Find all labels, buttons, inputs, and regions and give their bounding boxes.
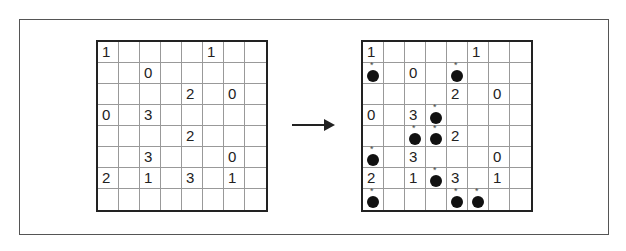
grid-cell: 3: [405, 147, 426, 168]
fuse-spark-icon: *: [475, 187, 479, 196]
fuse-spark-icon: *: [454, 61, 458, 70]
grid-cell: [384, 147, 405, 168]
grid-cell: [405, 42, 426, 63]
clue-grid: 11020032302131: [96, 40, 268, 212]
grid-cell: *: [405, 126, 426, 147]
grid-cell: [384, 168, 405, 189]
grid-cell: [161, 42, 182, 63]
grid-cell: [224, 189, 245, 210]
grid-cell: [161, 189, 182, 210]
clue-number: 0: [493, 148, 501, 166]
grid-cell: [384, 105, 405, 126]
clue-number: 2: [451, 85, 459, 103]
clue-number: 1: [144, 169, 152, 187]
grid-cell: [405, 84, 426, 105]
clue-number: 0: [228, 85, 236, 103]
clue-number: 2: [186, 127, 194, 145]
grid-cell: [140, 126, 161, 147]
clue-number: 3: [409, 148, 417, 166]
clue-number: 3: [186, 169, 194, 187]
grid-cell: [510, 63, 531, 84]
grid-cell: [119, 126, 140, 147]
grid-cell: [245, 168, 266, 189]
grid-cell: [245, 126, 266, 147]
grid-cell: 0: [224, 147, 245, 168]
grid-cell: [119, 105, 140, 126]
grid-cell: [426, 42, 447, 63]
clue-number: 0: [493, 85, 501, 103]
grid-cell: [161, 63, 182, 84]
grid-cell: [161, 84, 182, 105]
grid-cell: [384, 126, 405, 147]
grid-cell: [98, 63, 119, 84]
grid-cell: [468, 147, 489, 168]
grid-cell: [203, 189, 224, 210]
grid-cell: [140, 84, 161, 105]
grid-cell: [182, 63, 203, 84]
grid-cell: 2: [98, 168, 119, 189]
grid-cell: [405, 189, 426, 210]
grid-cell: [245, 42, 266, 63]
clue-number: 1: [228, 169, 236, 187]
grid-cell: 3: [140, 105, 161, 126]
grid-cell: 0: [363, 105, 384, 126]
fuse-spark-icon: *: [454, 187, 458, 196]
grid-cell: 3: [182, 168, 203, 189]
grid-cell: 0: [489, 84, 510, 105]
grid-cell: [245, 63, 266, 84]
grid-cell: [161, 147, 182, 168]
grid-cell: [245, 189, 266, 210]
grid-cell: [119, 63, 140, 84]
grid-cell: [245, 147, 266, 168]
clue-number: 0: [409, 64, 417, 82]
grid-cell: [426, 189, 447, 210]
grid-cell: [468, 63, 489, 84]
grid-cell: 1: [405, 168, 426, 189]
grid-cell: [140, 189, 161, 210]
fuse-spark-icon: *: [370, 145, 374, 154]
fuse-spark-icon: *: [433, 103, 437, 112]
grid-cell: [203, 168, 224, 189]
grid-cell: [489, 42, 510, 63]
grid-cell: [119, 147, 140, 168]
grid-cell: [98, 84, 119, 105]
clue-number: 1: [472, 43, 480, 61]
clue-number: 1: [409, 169, 417, 187]
grid-cell: [468, 126, 489, 147]
grid-cell: 1: [224, 168, 245, 189]
grid-cell: [182, 105, 203, 126]
grid-cell: [489, 105, 510, 126]
fuse-spark-icon: *: [412, 124, 416, 133]
grid-cell: [203, 63, 224, 84]
grid-cell: [468, 105, 489, 126]
grid-cell: [384, 189, 405, 210]
grid-cell: [510, 42, 531, 63]
grid-cell: [98, 147, 119, 168]
grid-cell: [245, 84, 266, 105]
grid-cell: [426, 63, 447, 84]
arrowhead-icon: [324, 119, 335, 131]
grid-cell: [468, 84, 489, 105]
grid-cell: *: [363, 63, 384, 84]
grid-cell: [98, 126, 119, 147]
bomb-icon: [409, 133, 421, 145]
grid-cell: [384, 63, 405, 84]
clue-number: 0: [144, 64, 152, 82]
grid-cell: [224, 105, 245, 126]
grid-cell: *: [468, 189, 489, 210]
clue-number: 2: [186, 85, 194, 103]
grid-cell: [510, 84, 531, 105]
clue-number: 1: [207, 43, 215, 61]
clue-number: 1: [102, 43, 110, 61]
clue-number: 0: [102, 106, 110, 124]
clue-number: 1: [367, 43, 375, 61]
grid-cell: [98, 189, 119, 210]
clue-number: 0: [367, 106, 375, 124]
bomb-icon: [367, 196, 379, 208]
grid-cell: [245, 105, 266, 126]
bomb-icon: [367, 70, 379, 82]
grid-cell: [510, 105, 531, 126]
grid-cell: [119, 189, 140, 210]
grid-cell: 0: [489, 147, 510, 168]
grid-cell: *: [447, 189, 468, 210]
